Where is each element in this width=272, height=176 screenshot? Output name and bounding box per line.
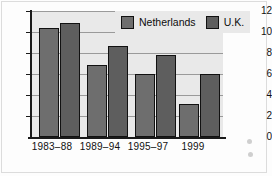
y-tick-label: 8 (248, 48, 272, 58)
legend-item-uk: U.K. (206, 16, 244, 29)
legend-label: U.K. (224, 16, 244, 28)
bar-netherlands (135, 74, 155, 137)
scan-artifact (248, 152, 253, 157)
x-axis-line (28, 137, 226, 139)
bar-netherlands (39, 28, 59, 137)
chart-legend: Netherlands U.K. (115, 11, 250, 33)
y-tick-label: 4 (248, 90, 272, 100)
legend-label: Netherlands (139, 16, 196, 28)
bar-uk (156, 55, 176, 137)
legend-swatch-icon (206, 16, 219, 29)
bar-netherlands (87, 65, 107, 137)
x-tick-label: 1999 (158, 141, 228, 152)
legend-swatch-icon (121, 16, 134, 29)
y-tick-label: 12 (248, 6, 272, 16)
bar-uk (108, 46, 128, 137)
bar-group (39, 11, 83, 137)
bar-uk (60, 23, 80, 137)
bar-chart-figure: 12 10 8 6 4 2 0 (0, 0, 272, 176)
y-axis-line (30, 10, 32, 139)
legend-item-netherlands: Netherlands (121, 16, 196, 29)
y-tick-label: 2 (248, 111, 272, 121)
bar-netherlands (179, 104, 199, 137)
scan-artifact (247, 139, 252, 144)
y-tick-label: 10 (248, 27, 272, 37)
bar-uk (200, 74, 220, 137)
y-tick-label: 6 (248, 69, 272, 79)
